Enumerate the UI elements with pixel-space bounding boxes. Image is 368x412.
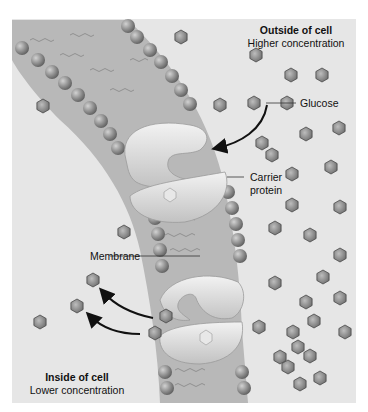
arrow-release-lower bbox=[90, 316, 140, 334]
glucose-molecule-outside bbox=[334, 291, 346, 305]
glucose-molecule-outside bbox=[253, 320, 265, 334]
glucose-molecule-transit bbox=[149, 326, 161, 340]
diagram-frame bbox=[12, 19, 356, 403]
glucose-molecule-outside bbox=[248, 96, 260, 110]
glucose-molecule-outside bbox=[256, 136, 268, 150]
glucose-molecule-outside bbox=[286, 198, 298, 212]
glucose-molecule-outside bbox=[287, 325, 299, 339]
inside-cell-title: Inside of cell bbox=[22, 371, 132, 383]
glucose-molecule-outside bbox=[286, 167, 298, 181]
glucose-molecule-inside bbox=[71, 299, 83, 313]
carrier-protein-label-line2: protein bbox=[250, 184, 282, 196]
glucose-molecule-outside bbox=[334, 200, 346, 214]
glucose-molecule-outside bbox=[325, 160, 337, 174]
outside-cell-title: Outside of cell bbox=[232, 24, 360, 36]
glucose-molecule-outside bbox=[308, 314, 320, 328]
membrane-diagram-svg bbox=[12, 19, 356, 403]
glucose-molecule-outside bbox=[214, 98, 226, 112]
glucose-molecule-outside bbox=[316, 68, 328, 82]
inside-cell-subtitle: Lower concentration bbox=[22, 384, 132, 396]
glucose-molecule-inside bbox=[34, 315, 46, 329]
carrier-protein-label-line1: Carrier bbox=[250, 171, 282, 183]
glucose-molecule-outside bbox=[304, 349, 316, 363]
glucose-molecule-outside bbox=[300, 295, 312, 309]
glucose-molecule-outside bbox=[250, 48, 262, 62]
glucose-molecule-outside bbox=[317, 270, 329, 284]
glucose-molecule-outside bbox=[339, 325, 351, 339]
glucose-molecule-transit bbox=[160, 309, 172, 323]
arrow-release-upper bbox=[103, 292, 153, 318]
glucose-molecule-inside bbox=[37, 99, 49, 113]
glucose-molecule-inside bbox=[87, 273, 99, 287]
glucose-molecule-outside bbox=[175, 30, 187, 44]
glucose-label: Glucose bbox=[300, 97, 339, 109]
glucose-molecule-outside bbox=[285, 68, 297, 82]
glucose-molecule-outside bbox=[333, 121, 345, 135]
glucose-molecule-outside bbox=[269, 221, 281, 235]
glucose-molecule-outside bbox=[266, 148, 278, 162]
glucose-molecule-outside bbox=[292, 340, 304, 354]
glucose-molecule-inside bbox=[118, 225, 130, 239]
glucose-molecule-outside bbox=[300, 127, 312, 141]
glucose-molecule-outside bbox=[334, 248, 346, 262]
glucose-molecule-outside bbox=[269, 276, 281, 290]
glucose-molecule-outside bbox=[294, 377, 306, 391]
glucose-molecule-outside bbox=[314, 371, 326, 385]
glucose-molecule-outside bbox=[282, 360, 294, 374]
outside-cell-subtitle: Higher concentration bbox=[232, 37, 360, 49]
membrane-label: Membrane bbox=[90, 250, 140, 262]
glucose-molecule-outside bbox=[304, 228, 316, 242]
